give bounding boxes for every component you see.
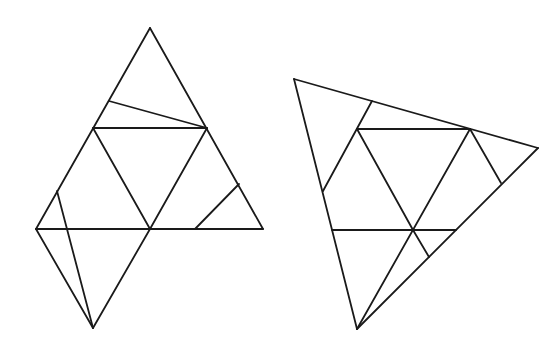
- segment-center-to-bottom: [93, 229, 150, 328]
- segment-right-to-bottom: [357, 148, 538, 329]
- segment-top-left-to-bottom: [294, 79, 357, 329]
- segment-top-side-to-left-side: [323, 101, 372, 191]
- segment-center-to-lower: [413, 230, 429, 257]
- segment-mid-right-to-center: [150, 128, 207, 229]
- segment-lower-left-side-to-bottom: [57, 191, 93, 328]
- segment-top-left-to-right: [294, 79, 538, 148]
- diagram-canvas: [0, 0, 558, 338]
- segment-inner-left-to-center: [357, 129, 413, 230]
- segment-base-left-to-bottom: [36, 229, 93, 328]
- segment-right-side-to-base-inner: [195, 184, 239, 229]
- segment-mid-left-to-center: [93, 128, 150, 229]
- left-triangle-figure: [36, 28, 263, 328]
- right-triangle-figure: [294, 79, 538, 329]
